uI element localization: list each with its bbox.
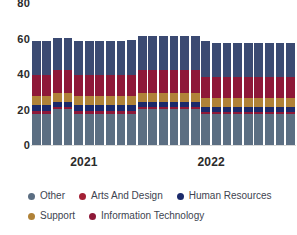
segment-support bbox=[191, 93, 200, 102]
x-group-label-2022: 2022 bbox=[197, 155, 225, 169]
segment-other-top- bbox=[117, 41, 126, 75]
segment-support bbox=[42, 96, 51, 105]
bar-2021-12[interactable] bbox=[148, 36, 157, 146]
segment-arts-and-design bbox=[106, 75, 115, 96]
segment-other bbox=[148, 109, 157, 146]
segment-other-top- bbox=[180, 36, 189, 70]
bar-2022-09[interactable] bbox=[244, 43, 253, 146]
bar-2021-11[interactable] bbox=[138, 36, 147, 146]
bar-2021-05[interactable] bbox=[74, 41, 83, 146]
bar-2021-09[interactable] bbox=[117, 41, 126, 146]
bar-2022-03[interactable] bbox=[180, 36, 189, 146]
bar-2021-06[interactable] bbox=[85, 41, 94, 146]
bar-2021-01[interactable] bbox=[32, 41, 41, 146]
bar-2022-06[interactable] bbox=[212, 43, 221, 146]
bar-2022-04[interactable] bbox=[191, 36, 200, 146]
segment-other-top- bbox=[95, 41, 104, 75]
legend-item-information-technology[interactable]: Information Technology bbox=[89, 211, 204, 221]
bar-2021-07[interactable] bbox=[95, 41, 104, 146]
segment-support bbox=[254, 98, 263, 107]
segment-other-top- bbox=[286, 43, 295, 77]
segment-support bbox=[32, 96, 41, 105]
segment-other-top- bbox=[138, 36, 147, 70]
segment-support bbox=[223, 98, 232, 107]
segment-other-top- bbox=[106, 41, 115, 75]
segment-other-top- bbox=[159, 36, 168, 70]
segment-other-top- bbox=[32, 41, 41, 75]
y-tick-20: 20 bbox=[4, 105, 30, 116]
bar-2022-08[interactable] bbox=[233, 43, 242, 146]
segment-arts-and-design bbox=[117, 75, 126, 96]
bar-series-group bbox=[31, 0, 296, 146]
segment-other-top- bbox=[64, 38, 73, 70]
segment-other bbox=[74, 114, 83, 146]
bar-2021-03[interactable] bbox=[53, 38, 62, 146]
bar-2022-11[interactable] bbox=[265, 43, 274, 146]
segment-support bbox=[233, 98, 242, 107]
segment-arts-and-design bbox=[64, 70, 73, 93]
segment-support bbox=[170, 93, 179, 102]
segment-arts-and-design bbox=[159, 70, 168, 93]
y-tick-60: 60 bbox=[4, 34, 30, 45]
segment-other bbox=[170, 109, 179, 146]
segment-other bbox=[180, 109, 189, 146]
segment-other bbox=[106, 114, 115, 146]
legend-item-support[interactable]: Support bbox=[28, 211, 75, 221]
segment-other-top- bbox=[223, 43, 232, 77]
segment-arts-and-design bbox=[85, 75, 94, 96]
chart-legend: OtherArts And DesignHuman ResourcesSuppo… bbox=[0, 186, 297, 226]
segment-other bbox=[159, 109, 168, 146]
bar-2021-10[interactable] bbox=[127, 40, 136, 146]
x-axis-baseline bbox=[31, 145, 296, 146]
legend-label: Arts And Design bbox=[91, 191, 163, 201]
bar-2023-01[interactable] bbox=[286, 43, 295, 146]
legend-dot-icon bbox=[89, 213, 96, 220]
segment-other bbox=[127, 114, 136, 146]
segment-arts-and-design bbox=[223, 77, 232, 98]
segment-other-top- bbox=[191, 36, 200, 70]
legend-label: Support bbox=[40, 211, 75, 221]
bar-2021-04[interactable] bbox=[64, 38, 73, 146]
bar-2021-08[interactable] bbox=[106, 41, 115, 146]
legend-item-arts-and-design[interactable]: Arts And Design bbox=[79, 191, 163, 201]
bar-2022-05[interactable] bbox=[201, 41, 210, 146]
segment-support bbox=[286, 98, 295, 107]
bars-container bbox=[31, 0, 296, 150]
segment-other-top- bbox=[254, 43, 263, 77]
legend-row-2: SupportInformation Technology bbox=[0, 206, 297, 226]
segment-support bbox=[201, 98, 210, 107]
segment-other-top- bbox=[265, 43, 274, 77]
x-group-label-2021: 2021 bbox=[70, 155, 98, 169]
bar-2022-01[interactable] bbox=[159, 36, 168, 146]
segment-arts-and-design bbox=[127, 75, 136, 96]
segment-other bbox=[85, 114, 94, 146]
legend-label: Human Resources bbox=[189, 191, 272, 201]
segment-support bbox=[159, 93, 168, 102]
segment-arts-and-design bbox=[244, 77, 253, 98]
segment-support bbox=[106, 96, 115, 105]
segment-other bbox=[117, 114, 126, 146]
legend-dot-icon bbox=[79, 193, 86, 200]
segment-arts-and-design bbox=[276, 77, 285, 98]
bar-2022-12[interactable] bbox=[276, 43, 285, 146]
segment-other bbox=[191, 109, 200, 146]
segment-other-top- bbox=[85, 41, 94, 75]
segment-other bbox=[254, 114, 263, 146]
segment-other-top- bbox=[148, 36, 157, 70]
bar-2022-10[interactable] bbox=[254, 43, 263, 146]
segment-other bbox=[53, 109, 62, 146]
segment-other-top- bbox=[201, 41, 210, 77]
bar-2022-02[interactable] bbox=[170, 36, 179, 146]
legend-item-other[interactable]: Other bbox=[28, 191, 65, 201]
legend-item-human-resources[interactable]: Human Resources bbox=[177, 191, 272, 201]
segment-other bbox=[244, 114, 253, 146]
segment-other bbox=[201, 114, 210, 146]
legend-dot-icon bbox=[177, 193, 184, 200]
bar-2022-07[interactable] bbox=[223, 43, 232, 146]
segment-support bbox=[117, 96, 126, 105]
y-tick-0: 0 bbox=[4, 140, 30, 151]
segment-arts-and-design bbox=[233, 77, 242, 98]
segment-other-top- bbox=[74, 41, 83, 75]
bar-2021-02[interactable] bbox=[42, 41, 51, 146]
segment-support bbox=[138, 93, 147, 102]
